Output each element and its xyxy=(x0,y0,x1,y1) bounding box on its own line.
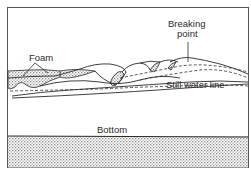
foam-label: Foam xyxy=(29,52,53,63)
still-water-line-label: Still water line xyxy=(166,79,225,90)
breaking-point-label-line2: point xyxy=(177,28,198,39)
wave-breaking-diagram: Foam Breaking point Still water line Bot… xyxy=(0,0,251,172)
bottom-label: Bottom xyxy=(97,124,127,135)
seabed xyxy=(8,136,248,168)
